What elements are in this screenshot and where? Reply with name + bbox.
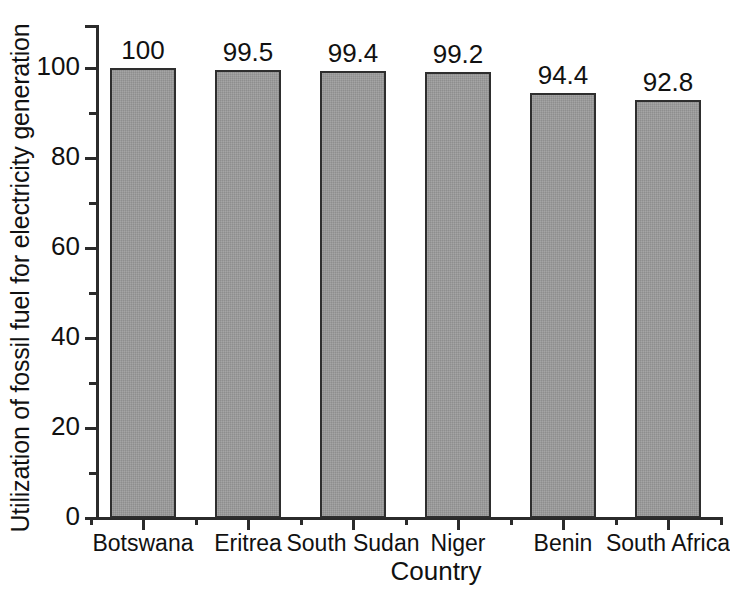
bar <box>110 68 176 518</box>
bar-value-label: 99.4 <box>328 38 379 69</box>
x-tick-major <box>667 517 670 530</box>
x-tick-label: Eritrea <box>214 530 282 557</box>
x-tick-minor <box>615 517 618 525</box>
bar-value-label: 99.2 <box>433 39 484 70</box>
x-tick-major <box>457 517 460 530</box>
y-tick-label: 0 <box>0 501 80 532</box>
bar-value-label: 92.8 <box>643 67 694 98</box>
bar-value-label: 94.4 <box>538 60 589 91</box>
y-tick-minor <box>89 292 97 295</box>
y-tick-minor <box>89 472 97 475</box>
x-tick-label: South Africa <box>606 530 730 557</box>
x-tick-major <box>562 517 565 530</box>
x-tick-minor <box>300 517 303 525</box>
bar-value-label: 100 <box>121 35 164 66</box>
bar-value-label: 99.5 <box>223 37 274 68</box>
x-axis-line <box>96 517 722 520</box>
y-tick-label: 20 <box>0 411 80 442</box>
y-axis-top-tick <box>85 25 97 28</box>
x-tick-minor <box>510 517 513 525</box>
y-tick-major <box>85 67 97 70</box>
bar <box>215 70 281 518</box>
y-tick-minor <box>89 382 97 385</box>
bar <box>320 71 386 518</box>
y-tick-minor <box>89 202 97 205</box>
bar <box>635 100 701 518</box>
x-tick-major <box>142 517 145 530</box>
x-tick-label: Botswana <box>92 530 193 557</box>
x-tick-major <box>352 517 355 530</box>
y-tick-major <box>85 427 97 430</box>
y-tick-major <box>85 157 97 160</box>
y-tick-major <box>85 247 97 250</box>
y-tick-label: 80 <box>0 141 80 172</box>
x-tick-label: Niger <box>431 530 486 557</box>
bar <box>425 72 491 518</box>
y-tick-minor <box>89 112 97 115</box>
y-tick-label: 100 <box>0 51 80 82</box>
x-tick-major <box>247 517 250 530</box>
x-axis-title: Country <box>336 556 536 587</box>
x-tick-minor <box>195 517 198 525</box>
x-tick-label: South Sudan <box>286 530 419 557</box>
x-tick-minor <box>405 517 408 525</box>
y-tick-label: 60 <box>0 231 80 262</box>
y-axis-title: Utilization of fossil fuel for electrici… <box>4 8 36 548</box>
x-tick-label: Benin <box>534 530 593 557</box>
bar <box>530 93 596 518</box>
y-tick-major <box>85 337 97 340</box>
y-tick-label: 40 <box>0 321 80 352</box>
x-tick-minor <box>90 517 93 525</box>
y-axis-line <box>96 25 99 520</box>
x-tick-minor <box>720 517 723 525</box>
